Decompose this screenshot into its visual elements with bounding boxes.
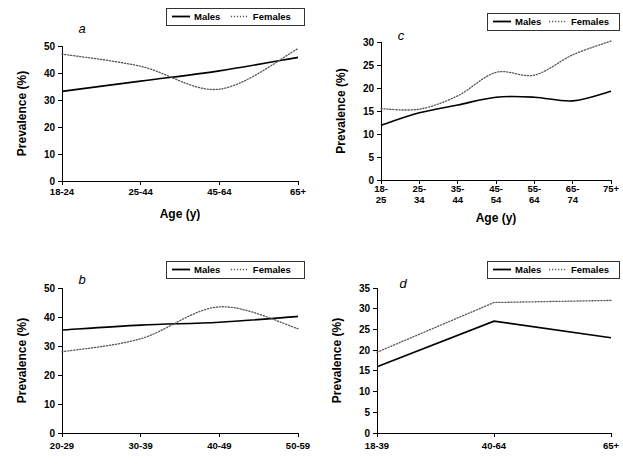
chart-a-y-axis: 01020304050 xyxy=(44,41,62,187)
y-tick-label: 0 xyxy=(364,428,370,439)
y-tick-label: 10 xyxy=(44,149,56,160)
x-tick-label: 40-64 xyxy=(482,440,507,451)
x-tick-label: 55-64 xyxy=(527,183,541,205)
chart-b-y-axis: 01020304050 xyxy=(44,283,62,439)
y-tick-label: 50 xyxy=(44,41,56,52)
x-tick-label: 50-59 xyxy=(286,440,310,451)
chart-b-series xyxy=(62,307,298,352)
chart-c-canvas: 051015202530Prevalence (%)18-2525-3435-4… xyxy=(311,0,623,240)
y-tick-label: 5 xyxy=(364,407,370,418)
chart-panel-d: 05101520253035Prevalence (%)18-3940-6465… xyxy=(311,240,623,470)
y-tick-label: 25 xyxy=(359,324,371,335)
y-tick-label: 15 xyxy=(363,106,375,117)
chart-a-axes xyxy=(62,46,298,181)
y-tick-label: 30 xyxy=(44,95,56,106)
x-tick-label: 45-64 xyxy=(207,186,232,197)
legend-label-females: Females xyxy=(571,16,609,27)
y-tick-label: 10 xyxy=(359,386,371,397)
chart-d-axes xyxy=(377,288,611,433)
series-line-females xyxy=(377,300,611,352)
x-axis-title: Age (y) xyxy=(476,211,517,225)
chart-panel-a: 01020304050Prevalence (%)18-2425-4445-64… xyxy=(0,0,312,240)
y-tick-label: 20 xyxy=(363,83,375,94)
x-tick-label: 65+ xyxy=(290,186,307,197)
series-line-males xyxy=(62,316,298,330)
y-axis-title: Prevalence (%) xyxy=(334,68,348,153)
x-tick-label: 25-44 xyxy=(129,186,154,197)
legend-label-females: Females xyxy=(253,264,291,275)
x-axis-title: Age (y) xyxy=(160,207,201,221)
panel-letter-d: d xyxy=(399,276,407,291)
x-tick-label: 18-25 xyxy=(374,183,388,205)
panel-letter-c: c xyxy=(398,28,405,43)
x-tick-label: 30-39 xyxy=(129,440,153,451)
x-tick-label: 65-74 xyxy=(566,183,580,205)
y-tick-label: 15 xyxy=(359,365,371,376)
y-tick-label: 30 xyxy=(359,303,371,314)
chart-b-canvas: 01020304050Prevalence (%)20-2930-3940-49… xyxy=(0,240,312,470)
legend-label-males: Males xyxy=(515,16,541,27)
y-tick-label: 40 xyxy=(44,68,56,79)
chart-panel-c: 051015202530Prevalence (%)18-2525-3435-4… xyxy=(311,0,623,240)
chart-a-canvas: 01020304050Prevalence (%)18-2425-4445-64… xyxy=(0,0,312,240)
y-tick-label: 0 xyxy=(49,428,55,439)
y-tick-label: 20 xyxy=(44,370,56,381)
series-line-males xyxy=(377,321,611,367)
legend-label-females: Females xyxy=(571,264,609,275)
chart-d-y-axis: 05101520253035 xyxy=(359,283,377,439)
chart-a-x-axis: 18-2425-4445-6465+ xyxy=(50,181,307,197)
legend-label-males: Males xyxy=(194,11,220,22)
chart-c-x-axis: 18-2525-3435-4445-5455-6465-7475+ xyxy=(374,180,619,205)
chart-d-x-axis: 18-3940-6465+ xyxy=(365,433,620,451)
y-tick-label: 25 xyxy=(363,60,375,71)
legend-label-males: Males xyxy=(515,264,541,275)
x-tick-label: 45-54 xyxy=(489,183,503,205)
legend-label-females: Females xyxy=(253,11,291,22)
x-tick-label: 25-34 xyxy=(412,183,426,205)
chart-d-canvas: 05101520253035Prevalence (%)18-3940-6465… xyxy=(311,240,623,470)
x-tick-label: 18-24 xyxy=(50,186,75,197)
chart-a-legend: MalesFemales xyxy=(166,8,304,25)
y-tick-label: 10 xyxy=(363,129,375,140)
y-tick-label: 5 xyxy=(368,152,374,163)
x-tick-label: 40-49 xyxy=(207,440,231,451)
chart-c-axes xyxy=(381,42,611,180)
y-tick-label: 30 xyxy=(363,37,375,48)
chart-panel-b: 01020304050Prevalence (%)20-2930-3940-49… xyxy=(0,240,312,470)
y-axis-title: Prevalence (%) xyxy=(330,318,344,403)
chart-b-legend: MalesFemales xyxy=(166,261,304,278)
y-tick-label: 40 xyxy=(44,312,56,323)
y-tick-label: 30 xyxy=(44,341,56,352)
chart-d-legend: MalesFemales xyxy=(487,261,619,278)
x-tick-label: 75+ xyxy=(603,183,620,194)
chart-c-series xyxy=(381,41,611,125)
x-tick-label: 18-39 xyxy=(365,440,389,451)
x-tick-label: 20-29 xyxy=(50,440,74,451)
y-axis-title: Prevalence (%) xyxy=(15,71,29,156)
panel-letter-b: b xyxy=(78,272,85,287)
series-line-males xyxy=(381,91,611,125)
y-tick-label: 50 xyxy=(44,283,56,294)
legend-label-males: Males xyxy=(194,264,220,275)
y-tick-label: 20 xyxy=(359,345,371,356)
series-line-males xyxy=(62,57,298,91)
chart-c-y-axis: 051015202530 xyxy=(363,37,381,186)
chart-b-x-axis: 20-2930-3940-4950-59 xyxy=(50,433,310,451)
y-tick-label: 0 xyxy=(49,176,55,187)
x-tick-label: 65+ xyxy=(603,440,620,451)
x-tick-label: 35-44 xyxy=(451,183,465,205)
chart-c-legend: MalesFemales xyxy=(487,13,619,30)
chart-a-series xyxy=(62,49,298,92)
y-axis-title: Prevalence (%) xyxy=(15,318,29,403)
y-tick-label: 20 xyxy=(44,122,56,133)
series-line-females xyxy=(62,307,298,352)
series-line-females xyxy=(62,49,298,90)
y-tick-label: 35 xyxy=(359,283,371,294)
panel-letter-a: a xyxy=(78,21,85,36)
chart-d-series xyxy=(377,300,611,366)
chart-b-axes xyxy=(62,288,298,433)
multi-panel-figure: 01020304050Prevalence (%)18-2425-4445-64… xyxy=(0,0,623,470)
y-tick-label: 10 xyxy=(44,399,56,410)
